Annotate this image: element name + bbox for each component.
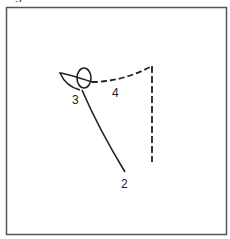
label-2: 2: [121, 177, 128, 191]
solid-path-to-2: [82, 90, 125, 172]
dashed-arc-4: [92, 66, 152, 82]
figure-diagram: 2 3 4: [0, 0, 230, 239]
label-3: 3: [72, 93, 79, 107]
label-4: 4: [112, 86, 119, 100]
figure-frame: [7, 8, 227, 235]
